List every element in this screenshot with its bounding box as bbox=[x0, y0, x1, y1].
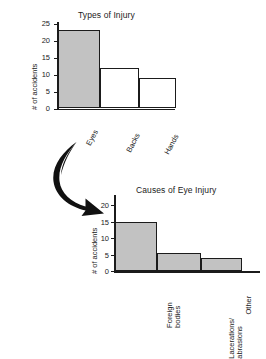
bar-lacerations-abrasions bbox=[157, 253, 201, 271]
x-tick-label-line: abrasions bbox=[236, 318, 244, 359]
x-tick-label-hands: Hands bbox=[163, 133, 180, 156]
x-tick-label-lacerations-abrasions: Lacerations/ abrasions bbox=[228, 318, 244, 359]
x-tick-label-line: Other bbox=[245, 296, 253, 315]
y-tick-label: 5 bbox=[36, 88, 50, 96]
bar-foreign-bodies bbox=[115, 222, 157, 272]
y-tick-label: 10 bbox=[95, 235, 109, 243]
chart-causes-of-eye-injury: Causes of Eye Injury # of accidents 20 1… bbox=[86, 182, 266, 348]
y-tick-label: 0 bbox=[36, 105, 50, 113]
y-tick-label: 0 bbox=[95, 268, 109, 276]
y-tick-label: 15 bbox=[95, 219, 109, 227]
x-tick-label-foreign-bodies: Foreign bodies bbox=[166, 302, 182, 327]
x-axis-line bbox=[114, 271, 260, 273]
bar-hands bbox=[139, 78, 176, 109]
x-tick-label-other: Other bbox=[245, 296, 253, 315]
chart-title-causes-of-eye-injury: Causes of Eye Injury bbox=[136, 185, 216, 195]
x-tick-label-backs: Backs bbox=[125, 132, 142, 154]
y-tick-label: 5 bbox=[95, 252, 109, 260]
x-tick-label-line: bodies bbox=[174, 302, 182, 327]
bar-eyes bbox=[58, 30, 100, 108]
y-tick-label: 20 bbox=[36, 37, 50, 45]
chart-title-types-of-injury: Types of Injury bbox=[78, 10, 135, 20]
y-tick-label: 10 bbox=[36, 71, 50, 79]
bar-other bbox=[201, 258, 242, 271]
x-axis-line bbox=[57, 109, 175, 111]
y-tick-label: 15 bbox=[36, 54, 50, 62]
y-tick-label: 25 bbox=[36, 20, 50, 28]
chart-types-of-injury: Types of Injury # of accidents 25 20 15 … bbox=[0, 0, 200, 150]
y-tick-label: 20 bbox=[95, 202, 109, 210]
bar-backs bbox=[100, 68, 139, 109]
